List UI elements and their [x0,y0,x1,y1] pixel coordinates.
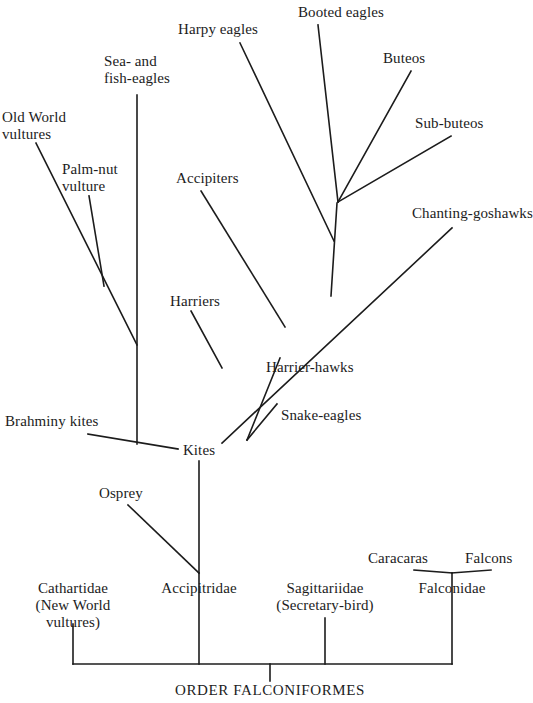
branch-osprey [128,505,199,573]
tip-label-sea-fish-eagles: Sea- andfish-eagles [104,53,170,87]
tip-label-sub-buteos: Sub-buteos [415,115,484,132]
tip-label-snake-eagles: Snake-eagles [281,407,361,424]
branch-brahminy-kites [88,434,178,449]
branch-buteos [338,71,411,202]
family-label-cathartidae: Cathartidae(New Worldvultures) [36,580,111,631]
node-label-kites: Kites [183,442,215,459]
root-label-order-falconiformes: ORDER FALCONIFORMES [175,682,365,699]
branch-harriers [191,311,222,368]
tip-label-palm-nut-vulture: Palm-nutvulture [62,161,118,195]
tip-label-chanting-goshawks: Chanting-goshawks [412,205,533,222]
tip-label-old-world-vultures: Old Worldvultures [2,109,66,143]
tip-label-harrier-hawks: Harrier-hawks [266,359,354,376]
branch-falcons [452,570,491,573]
tip-label-booted-eagles: Booted eagles [298,4,384,21]
branch-palm-nut-vulture [89,196,104,286]
tip-label-harriers: Harriers [170,293,220,310]
branch-snake-eagles [247,404,277,440]
tip-label-falcons: Falcons [465,550,512,567]
tip-label-osprey: Osprey [99,485,143,502]
tip-label-harpy-eagles: Harpy eagles [178,21,258,38]
branch-booted-eagles [318,25,338,202]
branch-harpy-eagles [240,43,334,241]
tip-label-accipiters: Accipiters [176,170,239,187]
family-label-falconidae: Falconidae [419,580,486,597]
tip-label-brahminy-kites: Brahminy kites [5,413,98,430]
branch-eagle-clade-stem [331,203,337,296]
branch-caracaras [414,570,452,573]
tip-label-caracaras: Caracaras [368,550,428,567]
family-label-sagittariidae: Sagittariidae(Secretary-bird) [276,580,373,614]
branch-sub-buteos [338,136,451,202]
tip-label-buteos: Buteos [383,50,425,67]
family-label-accipitridae: Accipitridae [161,580,236,597]
